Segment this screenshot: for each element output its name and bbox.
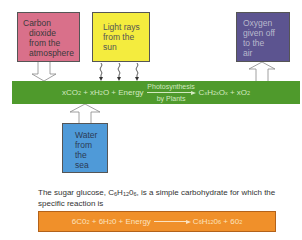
arrow-label-bottom: by Plants <box>157 95 186 103</box>
subscript: 2 <box>247 90 250 96</box>
reactant: + 6H <box>90 217 109 226</box>
reaction-arrow: Photosynthesis by Plants <box>147 83 196 103</box>
label: given off <box>243 28 286 38</box>
text: The sugar glucose, C <box>38 188 114 197</box>
down-arrow-icon <box>32 62 56 81</box>
reactant: O + Energy <box>103 88 144 97</box>
label: air <box>243 48 286 58</box>
label: atmosphere <box>23 48 76 58</box>
carbon-dioxide-box: Carbon dioxide from the atmosphere <box>17 12 80 62</box>
label: from the <box>23 38 76 48</box>
arrow-right-icon <box>151 220 193 224</box>
arrow-label-top: Photosynthesis <box>147 83 194 91</box>
label: dioxide <box>23 28 76 38</box>
light-ray-arrows-icon <box>100 63 138 78</box>
reactant: xCO <box>62 88 78 97</box>
reactant: 0 + Energy <box>112 217 151 226</box>
label: from the <box>103 32 145 42</box>
label: Oxygen <box>243 18 286 28</box>
product: + 60 <box>221 217 239 226</box>
subscript: 2 <box>239 219 242 225</box>
label: sun <box>103 42 145 52</box>
label: sea <box>75 160 104 170</box>
water-box: Water from the sea <box>62 123 108 173</box>
oxygen-box: Oxygen given off to the air <box>236 12 290 62</box>
up-arrow-icon <box>249 62 275 81</box>
label: from <box>75 140 104 150</box>
specific-equation-band: 6C02 + 6H2 0 + Energy C6 H12 06 + 602 <box>38 211 276 232</box>
label: Light rays <box>103 22 145 32</box>
label: Carbon <box>23 18 76 28</box>
reactant: 6C0 <box>72 217 87 226</box>
product: + xO <box>228 88 247 97</box>
reactant: + xH <box>81 88 100 97</box>
label: Water <box>75 130 104 140</box>
label: to the <box>243 38 286 48</box>
up-arrow-icon <box>70 104 100 123</box>
general-equation-band: xCO2 + xH2 O + Energy Photosynthesis by … <box>12 81 300 104</box>
light-rays-box: Light rays from the sun <box>92 12 150 62</box>
caption-text: The sugar glucose, C6H1206, is a simple … <box>38 188 278 208</box>
label: the <box>75 150 104 160</box>
